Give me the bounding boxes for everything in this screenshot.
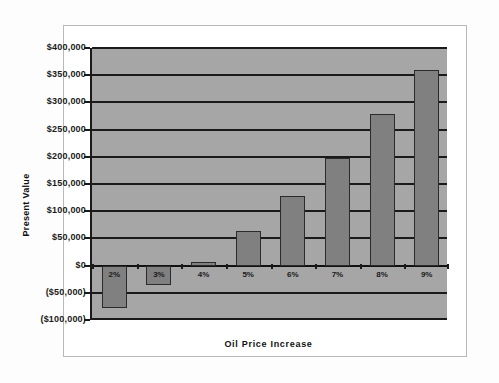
x-tick-mark (271, 264, 273, 269)
bar-7pct (325, 158, 350, 265)
bar-4pct (191, 262, 216, 266)
x-tick-label: 3% (139, 270, 179, 279)
x-tick-mark (447, 264, 449, 269)
x-tick-mark (404, 264, 406, 269)
x-tick-label: 2% (94, 270, 134, 279)
gridline (92, 47, 447, 49)
y-tick-label: $100,000 (6, 205, 86, 215)
x-tick-label: 9% (407, 270, 447, 279)
chart-page: Present Value $400,000$350,000$300,000$2… (0, 0, 499, 383)
x-tick-mark (92, 264, 94, 269)
y-tick-label: $200,000 (6, 151, 86, 161)
bar-8pct (370, 114, 395, 265)
plot-area: 2%3%4%5%6%7%8%9% (90, 48, 447, 320)
y-tick-label: $150,000 (6, 178, 86, 188)
x-tick-mark (360, 264, 362, 269)
x-tick-mark (181, 264, 183, 269)
x-tick-mark (137, 264, 139, 269)
gridline (92, 101, 447, 103)
y-tick-label: $50,000 (6, 232, 86, 242)
bar-9pct (414, 70, 439, 265)
x-tick-label: 6% (273, 270, 313, 279)
x-tick-label: 7% (317, 270, 357, 279)
x-tick-label: 8% (362, 270, 402, 279)
gridline (92, 74, 447, 76)
x-axis-title: Oil Price Increase (90, 339, 447, 349)
bar-6pct (280, 196, 305, 266)
y-tick-label: $0 (6, 260, 86, 270)
x-tick-label: 5% (228, 270, 268, 279)
y-tick-label: ($50,000) (6, 287, 86, 297)
gridline (92, 292, 447, 294)
x-tick-mark (226, 264, 228, 269)
y-tick-label: ($100,000) (6, 314, 86, 324)
x-tick-label: 4% (184, 270, 224, 279)
y-tick-label: $250,000 (6, 124, 86, 134)
y-tick-label: $400,000 (6, 42, 86, 52)
x-tick-mark (315, 264, 317, 269)
bar-5pct (236, 231, 261, 265)
y-tick-label: $350,000 (6, 69, 86, 79)
y-tick-label: $300,000 (6, 96, 86, 106)
y-axis: Present Value $400,000$350,000$300,000$2… (0, 48, 86, 320)
